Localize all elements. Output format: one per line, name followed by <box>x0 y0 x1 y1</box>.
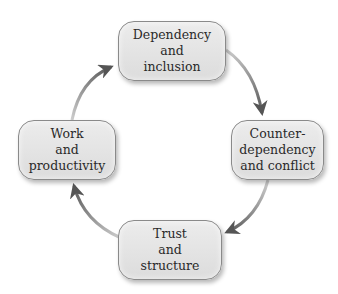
node-label: Work and productivity <box>29 126 106 174</box>
node-label: Dependency and inclusion <box>133 27 211 75</box>
node-trust-and-structure: Trust and structure <box>118 220 222 280</box>
node-counter-dependency-and-conflict: Counter- dependency and conflict <box>231 120 324 180</box>
node-dependency-and-inclusion: Dependency and inclusion <box>118 21 226 81</box>
arrow-left-to-top <box>72 67 111 120</box>
node-work-and-productivity: Work and productivity <box>18 120 116 180</box>
arrow-bottom-to-left <box>74 186 121 238</box>
node-label: Counter- dependency and conflict <box>239 126 315 174</box>
node-label: Trust and structure <box>141 226 200 274</box>
arrow-top-to-right <box>226 50 262 113</box>
arrow-right-to-bottom <box>227 180 268 232</box>
